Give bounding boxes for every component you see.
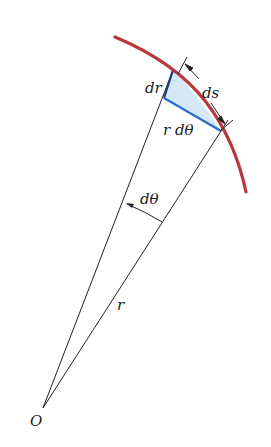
label-dtheta: dθ [140, 190, 159, 208]
label-origin: O [30, 412, 42, 430]
ray-2 [43, 131, 221, 408]
label-r-dtheta: r dθ [163, 121, 194, 139]
label-ds: ds [202, 84, 220, 102]
dtheta-arrowhead [126, 203, 134, 208]
ray-1 [43, 70, 173, 408]
polar-arc-diagram: dr ds r dθ dθ r O [0, 0, 271, 447]
label-dr: dr [145, 79, 163, 97]
label-r: r [117, 296, 125, 314]
